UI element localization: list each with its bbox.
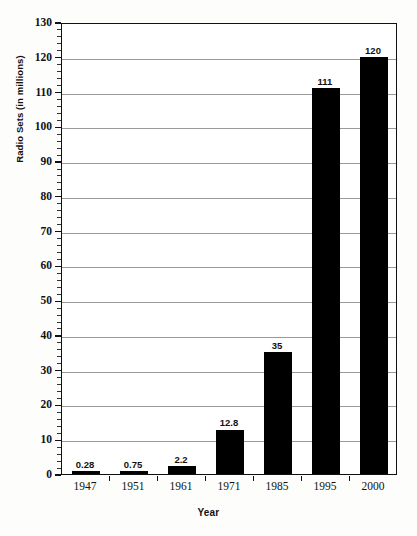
bar[interactable] <box>312 88 341 474</box>
bar-value-label: 111 <box>295 77 355 87</box>
y-axis-tick <box>55 335 61 336</box>
y-axis-minor-tick <box>57 203 62 204</box>
y-axis-minor-tick <box>57 280 62 281</box>
y-axis-minor-tick <box>57 148 62 149</box>
y-axis-tick-label: 0 <box>18 469 52 481</box>
y-axis-minor-tick <box>57 412 62 413</box>
gridline <box>62 163 396 164</box>
y-axis-minor-tick <box>57 377 62 378</box>
y-axis-minor-tick <box>57 36 62 37</box>
gridline <box>62 372 396 373</box>
y-axis-tick <box>55 474 61 475</box>
y-axis-minor-tick <box>57 384 62 385</box>
gridline <box>62 302 396 303</box>
y-axis-minor-tick <box>57 175 62 176</box>
y-axis-tick-label: 90 <box>18 156 52 168</box>
y-axis-minor-tick <box>57 259 62 260</box>
y-axis-minor-tick <box>57 141 62 142</box>
y-axis-minor-tick <box>57 426 62 427</box>
y-axis-minor-tick <box>57 85 62 86</box>
bar-value-label: 12.8 <box>199 418 259 428</box>
y-axis-tick <box>55 196 61 197</box>
y-axis-tick-label: 100 <box>18 121 52 133</box>
y-axis-minor-tick <box>57 447 62 448</box>
y-axis-tick <box>55 231 61 232</box>
y-axis-tick-label: 120 <box>18 52 52 64</box>
gridline <box>62 94 396 95</box>
y-axis-minor-tick <box>57 189 62 190</box>
bar[interactable] <box>72 471 101 474</box>
bar[interactable] <box>120 471 149 474</box>
y-axis-tick-label: 30 <box>18 365 52 377</box>
y-axis-minor-tick <box>57 182 62 183</box>
bar-value-label: 120 <box>343 46 403 56</box>
y-axis-minor-tick <box>57 113 62 114</box>
y-axis-tick <box>55 161 61 162</box>
y-axis-minor-tick <box>57 169 62 170</box>
y-axis-minor-tick <box>57 78 62 79</box>
y-axis-minor-tick <box>57 391 62 392</box>
gridline <box>62 406 396 407</box>
y-axis-minor-tick <box>57 99 62 100</box>
y-axis-minor-tick <box>57 328 62 329</box>
y-axis-minor-tick <box>57 308 62 309</box>
y-axis-minor-tick <box>57 287 62 288</box>
y-axis-minor-tick <box>57 322 62 323</box>
y-axis-minor-tick <box>57 356 62 357</box>
y-axis-minor-tick <box>57 106 62 107</box>
y-axis-minor-tick <box>57 419 62 420</box>
y-axis-minor-tick <box>57 245 62 246</box>
y-axis-minor-tick <box>57 43 62 44</box>
y-axis-minor-tick <box>57 134 62 135</box>
y-axis-tick <box>55 440 61 441</box>
y-axis-minor-tick <box>57 454 62 455</box>
y-axis-minor-tick <box>57 71 62 72</box>
y-axis-tick <box>55 22 61 23</box>
gridline <box>62 267 396 268</box>
y-axis-tick <box>55 57 61 58</box>
y-axis-tick <box>55 92 61 93</box>
y-axis-minor-tick <box>57 224 62 225</box>
bar-value-label: 35 <box>247 341 307 351</box>
y-axis-tick <box>55 266 61 267</box>
y-axis-minor-tick <box>57 29 62 30</box>
gridline <box>62 233 396 234</box>
y-axis-minor-tick <box>57 433 62 434</box>
y-axis-tick-label: 20 <box>18 399 52 411</box>
y-axis-tick-label: 110 <box>18 87 52 99</box>
y-axis-tick <box>55 405 61 406</box>
bar[interactable] <box>264 352 293 474</box>
y-axis-tick <box>55 127 61 128</box>
y-axis-tick-label: 60 <box>18 260 52 272</box>
y-axis-minor-tick <box>57 294 62 295</box>
y-axis-minor-tick <box>57 210 62 211</box>
y-axis-minor-tick <box>57 349 62 350</box>
y-axis-minor-tick <box>57 217 62 218</box>
y-axis-minor-tick <box>57 64 62 65</box>
y-axis-minor-tick <box>57 252 62 253</box>
y-axis-tick-label: 80 <box>18 191 52 203</box>
y-axis-tick-label: 40 <box>18 330 52 342</box>
y-axis-minor-tick <box>57 120 62 121</box>
y-axis-minor-tick <box>57 50 62 51</box>
y-axis-minor-tick <box>57 273 62 274</box>
y-axis-tick-label: 50 <box>18 295 52 307</box>
y-axis-tick <box>55 301 61 302</box>
y-axis-minor-tick <box>57 363 62 364</box>
x-axis-title: Year <box>0 507 417 518</box>
bar[interactable] <box>168 466 197 474</box>
y-axis-minor-tick <box>57 315 62 316</box>
gridline <box>62 59 396 60</box>
y-axis-tick <box>55 370 61 371</box>
y-axis-minor-tick <box>57 238 62 239</box>
bar[interactable] <box>360 57 389 474</box>
gridline <box>62 128 396 129</box>
bar[interactable] <box>216 430 245 475</box>
plot-area <box>61 23 397 475</box>
y-axis-minor-tick <box>57 342 62 343</box>
y-axis-minor-tick <box>57 398 62 399</box>
bar-value-label: 2.2 <box>151 455 211 465</box>
gridline <box>62 337 396 338</box>
gridline <box>62 198 396 199</box>
y-axis-tick-label: 70 <box>18 226 52 238</box>
